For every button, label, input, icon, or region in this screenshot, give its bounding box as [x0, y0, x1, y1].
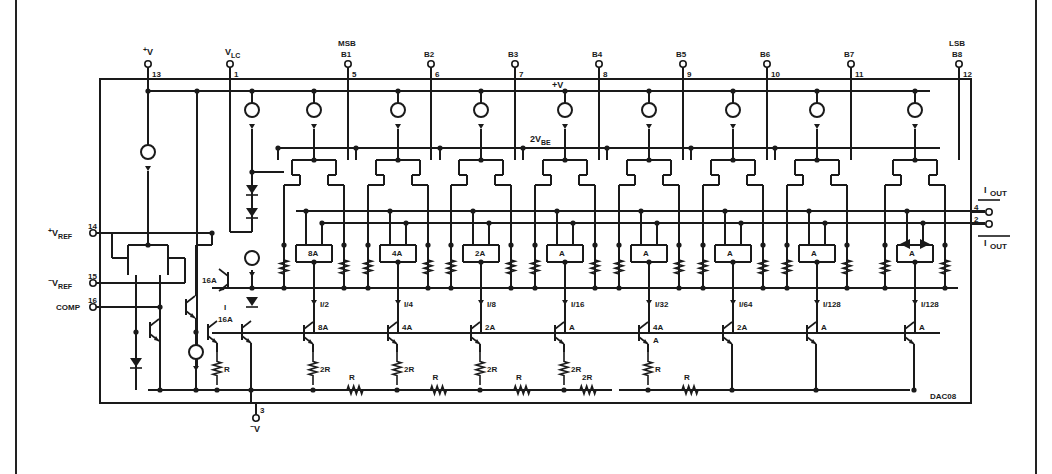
resistor-icon — [648, 386, 732, 394]
junction-dot — [248, 387, 253, 392]
junction-dot — [570, 220, 575, 225]
ladder-transistor-label: 8A — [318, 323, 328, 332]
arrow-down-icon — [562, 300, 568, 305]
pin-9[interactable] — [680, 61, 686, 67]
diode-icon — [130, 358, 142, 367]
arrow-down-icon — [730, 124, 736, 129]
arrow-down-icon — [395, 300, 401, 305]
junction-dot — [911, 387, 916, 392]
pin-number: 13 — [152, 70, 161, 79]
transistor-area-label: A — [909, 249, 915, 258]
part-number-label: DAC08 — [930, 392, 957, 401]
arrow-down-icon — [193, 366, 199, 371]
series-resistor-label: R — [349, 373, 355, 382]
pin-label: −V — [250, 423, 260, 434]
resistor-icon — [783, 252, 791, 282]
pin-3[interactable] — [253, 415, 259, 421]
arrow-down-icon — [730, 300, 736, 305]
junction-dot — [760, 285, 765, 290]
supply-label: +V — [552, 80, 563, 90]
output-pins[interactable]: 42IOUTIOUT — [971, 185, 1010, 251]
pin-number: 11 — [855, 70, 864, 79]
current-source-icon — [245, 103, 259, 117]
junction-dot — [448, 242, 453, 247]
series-resistor-label: 2R — [582, 373, 592, 382]
junction-dot — [784, 242, 789, 247]
junction-dot — [486, 220, 491, 225]
resistor-icon — [447, 252, 455, 282]
junction-dot — [365, 242, 370, 247]
pin-10[interactable] — [764, 61, 770, 67]
junction-dot — [425, 242, 430, 247]
transistor-area-label: A — [559, 249, 565, 258]
junction-dot — [844, 242, 849, 247]
pin-number: 16 — [88, 296, 97, 305]
junction-dot — [508, 285, 513, 290]
current-label: I/64 — [739, 300, 753, 309]
pin-2[interactable] — [986, 221, 992, 227]
arrow-down-icon — [912, 300, 918, 305]
junction-dot — [193, 387, 198, 392]
junction-dot — [303, 208, 308, 213]
pin-4[interactable] — [986, 209, 992, 215]
switch-stage: AI/16A2R — [531, 88, 599, 392]
resistor-icon — [675, 252, 683, 282]
arrow-down-icon — [311, 300, 317, 305]
resistor-icon — [759, 252, 767, 282]
pin-number: 2 — [974, 215, 979, 224]
junction-dot — [214, 387, 219, 392]
current-label: I/16 — [571, 300, 585, 309]
resistor-icon — [280, 252, 288, 282]
arrow-down-icon — [562, 124, 568, 129]
resistor-icon — [213, 352, 221, 385]
arrow-down-icon — [646, 124, 652, 129]
junction-dot — [532, 285, 537, 290]
current-label: I/32 — [655, 300, 669, 309]
pin-6[interactable] — [428, 61, 434, 67]
pin-7[interactable] — [512, 61, 518, 67]
pin-number: 4 — [974, 203, 979, 212]
pin-12[interactable] — [956, 61, 962, 67]
junction-dot — [554, 208, 559, 213]
pin-number: 5 — [352, 70, 357, 79]
junction-dot — [882, 285, 887, 290]
ladder-transistor-label: 4A — [653, 323, 663, 332]
current-source-icon — [726, 103, 740, 117]
ladder-emitter-label: A — [653, 336, 659, 345]
junction-dot — [676, 242, 681, 247]
transistor-area-label: 2A — [475, 249, 485, 258]
pin-11[interactable] — [848, 61, 854, 67]
pin-13[interactable] — [145, 61, 151, 67]
arrow-down-icon — [311, 124, 317, 129]
ref-current-label: I — [224, 303, 226, 312]
switch-stage: 2AI/82A2R — [447, 88, 515, 392]
ladder-transistor-label: A — [569, 323, 575, 332]
ladder-resistor-label: 2R — [320, 365, 330, 374]
junction-dot — [249, 285, 254, 290]
arrow-down-icon — [814, 300, 820, 305]
resistor-icon — [843, 252, 851, 282]
junction-dot — [341, 285, 346, 290]
ladder-transistor-label: 2A — [485, 323, 495, 332]
resistor-icon — [397, 386, 480, 394]
pin-number: 15 — [88, 272, 97, 281]
pin-number: 6 — [435, 70, 440, 79]
pin-5[interactable] — [345, 61, 351, 67]
pin-label: COMP — [56, 303, 81, 312]
junction-dot — [822, 220, 827, 225]
junction-dot — [813, 387, 818, 392]
junction-dot — [319, 220, 324, 225]
junction-dot — [942, 285, 947, 290]
pin-8[interactable] — [596, 61, 602, 67]
resistor-icon — [340, 252, 348, 282]
pin-label: B1 — [341, 50, 352, 59]
current-source-icon — [245, 251, 259, 265]
bias-label: 2VBE — [530, 134, 551, 146]
ladder-resistor-label: R — [655, 365, 661, 374]
transistor-area-label: 4A — [392, 249, 402, 258]
resistor-icon — [615, 252, 623, 282]
diode-icon — [246, 297, 258, 306]
pin-label: B6 — [760, 50, 771, 59]
pin-1[interactable] — [227, 61, 233, 67]
pin-label: +VREF — [48, 227, 73, 240]
